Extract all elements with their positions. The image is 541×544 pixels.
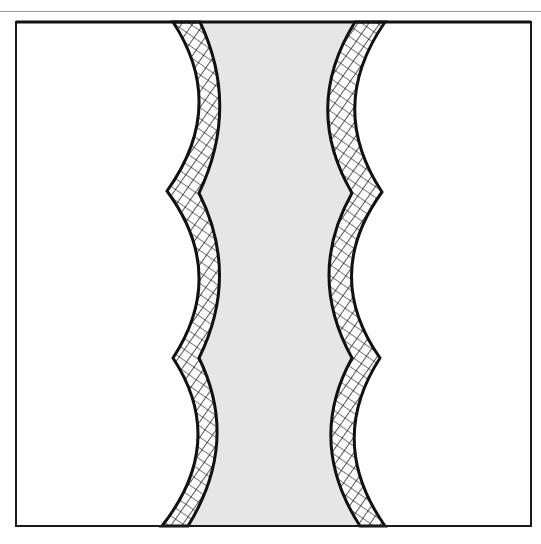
left-wall-band <box>162 22 220 526</box>
scalloped-channel-diagram <box>0 0 541 544</box>
right-wall-band <box>328 22 385 526</box>
